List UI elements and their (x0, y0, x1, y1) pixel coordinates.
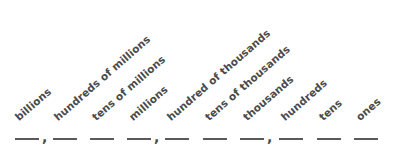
comma-separator: , (154, 130, 159, 144)
answer-blank[interactable] (240, 138, 264, 140)
answer-blank[interactable] (53, 138, 77, 140)
place-value-label: billions (13, 86, 53, 123)
answer-blank[interactable] (90, 138, 114, 140)
answer-blank[interactable] (127, 138, 151, 140)
comma-separator: , (267, 130, 272, 144)
place-value-chart: billions,hundreds of millionstens of mil… (0, 0, 416, 148)
answer-blank[interactable] (354, 138, 378, 140)
comma-separator: , (42, 130, 47, 144)
answer-blank[interactable] (165, 138, 189, 140)
answer-blank[interactable] (203, 138, 227, 140)
place-value-slots: billions,hundreds of millionstens of mil… (0, 0, 416, 148)
answer-blank[interactable] (15, 138, 39, 140)
answer-blank[interactable] (317, 138, 341, 140)
place-value-label: ones (354, 96, 382, 123)
answer-blank[interactable] (279, 138, 303, 140)
place-value-label: tens (317, 97, 344, 122)
